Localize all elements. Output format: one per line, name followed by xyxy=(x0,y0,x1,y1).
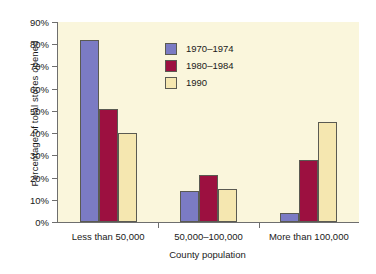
y-tick-mark xyxy=(52,44,58,45)
x-tick-label: Less than 50,000 xyxy=(72,231,145,242)
y-tick-mark xyxy=(52,111,58,112)
y-tick-mark xyxy=(52,222,58,223)
x-tick-mark xyxy=(259,222,260,228)
y-tick-label: 90% xyxy=(15,17,49,28)
bar xyxy=(80,40,99,222)
legend-label: 1980–1984 xyxy=(186,60,234,71)
y-tick-mark xyxy=(52,66,58,67)
legend-item: 1990 xyxy=(165,74,234,91)
x-tick-label: 50,000–100,000 xyxy=(174,231,243,242)
legend-swatch-icon xyxy=(165,77,177,89)
legend-item: 1970–1974 xyxy=(165,40,234,57)
bar xyxy=(99,109,118,222)
bar-chart: Percentage of total stores opened 0%10%2… xyxy=(0,0,376,274)
y-tick-mark xyxy=(52,22,58,23)
y-tick-label: 60% xyxy=(15,83,49,94)
y-tick-mark xyxy=(52,178,58,179)
y-tick-mark xyxy=(52,133,58,134)
x-axis-title: County population xyxy=(57,249,358,260)
x-tick-label: More than 100,000 xyxy=(269,231,349,242)
bar xyxy=(318,122,337,222)
legend-label: 1990 xyxy=(186,77,207,88)
bar xyxy=(218,189,237,222)
bar xyxy=(280,213,299,222)
legend-label: 1970–1974 xyxy=(186,43,234,54)
legend-swatch-icon xyxy=(165,60,177,72)
bar xyxy=(299,160,318,222)
plot-area: 0%10%20%30%40%50%60%70%80%90% Less than … xyxy=(57,22,359,223)
legend-item: 1980–1984 xyxy=(165,57,234,74)
bar xyxy=(199,175,218,222)
bar xyxy=(118,133,137,222)
y-tick-label: 50% xyxy=(15,105,49,116)
y-tick-label: 80% xyxy=(15,39,49,50)
legend-swatch-icon xyxy=(165,43,177,55)
y-tick-mark xyxy=(52,89,58,90)
y-tick-mark xyxy=(52,200,58,201)
bar xyxy=(180,191,199,222)
y-tick-label: 0% xyxy=(15,217,49,228)
y-tick-label: 70% xyxy=(15,61,49,72)
chart-legend: 1970–19741980–19841990 xyxy=(165,40,234,91)
y-tick-mark xyxy=(52,155,58,156)
y-tick-label: 40% xyxy=(15,128,49,139)
y-tick-label: 10% xyxy=(15,194,49,205)
y-tick-label: 20% xyxy=(15,172,49,183)
x-tick-mark xyxy=(158,222,159,228)
y-tick-label: 30% xyxy=(15,150,49,161)
